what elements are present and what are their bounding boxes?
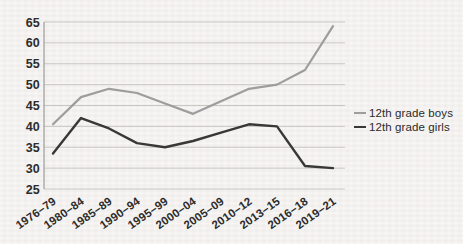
series-line-girls bbox=[53, 118, 333, 168]
y-axis-tick-label: 55 bbox=[26, 57, 40, 71]
line-chart: 6560555045403530251976–791980–841985–891… bbox=[0, 0, 463, 244]
y-axis-tick-label: 45 bbox=[26, 99, 40, 113]
series-line-boys bbox=[53, 26, 333, 124]
y-axis-tick-label: 50 bbox=[26, 78, 40, 92]
y-axis-tick-label: 25 bbox=[26, 183, 40, 197]
y-axis-tick-label: 65 bbox=[26, 16, 40, 30]
legend-label-girls: 12th grade girls bbox=[369, 121, 450, 133]
legend-label-boys: 12th grade boys bbox=[369, 107, 453, 119]
y-axis-tick-label: 40 bbox=[26, 120, 40, 134]
y-axis-tick-label: 35 bbox=[26, 141, 40, 155]
chart-page: 6560555045403530251976–791980–841985–891… bbox=[0, 0, 463, 244]
y-axis-tick-label: 30 bbox=[26, 162, 40, 176]
y-axis-tick-label: 60 bbox=[26, 36, 40, 50]
